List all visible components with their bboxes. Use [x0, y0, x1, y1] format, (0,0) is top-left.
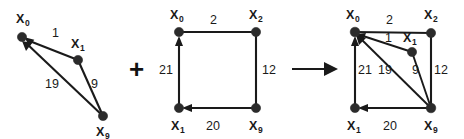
node-label-x2: X [424, 8, 433, 22]
graph-left: X 0 X 1 X 9 1 19 9 [16, 12, 110, 139]
edge-weight-x2-x9: 12 [262, 63, 276, 77]
node-x1[interactable] [73, 55, 82, 64]
node-label-x0: X [346, 8, 355, 22]
edge-weight-x1b-x0: 1 [385, 31, 392, 45]
graph-right: X 0 X 2 X 1 X 1 X 9 2 1 12 9 19 21 20 [346, 8, 448, 135]
node-label-x1-inner: X [403, 31, 412, 45]
arrowhead-x1-x0 [175, 36, 183, 46]
arrow-right-icon [292, 62, 338, 76]
node-sub-x0: 0 [25, 18, 30, 28]
node-sub-x1: 1 [80, 43, 85, 53]
node-label-x9: X [249, 119, 258, 133]
node-sub-x1: 1 [180, 125, 185, 135]
edge-weight-x9-x1: 20 [383, 119, 397, 133]
graph-middle: X 0 X 2 X 1 X 9 2 12 20 21 [159, 8, 276, 135]
edge-weight-x9-x0: 19 [45, 77, 59, 91]
edge-weight-x9-x1: 20 [206, 119, 220, 133]
node-sub-x2: 2 [433, 14, 438, 24]
node-label-x0: X [16, 12, 25, 26]
graph-addition-diagram: X 0 X 1 X 9 1 19 9 + [0, 0, 464, 139]
node-sub-x9: 9 [105, 131, 110, 139]
edge-weight-x1-x0: 21 [159, 63, 173, 77]
node-sub-x9: 9 [433, 125, 438, 135]
node-label-x2: X [249, 8, 258, 22]
edge-weight-x9-x0: 19 [378, 63, 392, 77]
plus-operator-symbol: + [129, 54, 144, 84]
node-sub-x2: 2 [258, 14, 263, 24]
node-label-x0: X [170, 8, 179, 22]
node-x9[interactable] [426, 103, 436, 113]
node-x1-inner[interactable] [407, 47, 416, 56]
node-x2[interactable] [426, 28, 435, 37]
node-x9[interactable] [98, 111, 107, 120]
node-label-x1: X [347, 119, 356, 133]
edge-weight-x1-x0: 21 [358, 63, 372, 77]
edge-weight-x2-x9: 12 [434, 63, 448, 77]
node-x2[interactable] [251, 27, 260, 36]
node-sub-x1: 1 [356, 125, 361, 135]
edge-weight-x0-x2: 2 [386, 13, 393, 27]
node-sub-x9: 9 [258, 125, 263, 135]
edge-x0-x2 [355, 32, 431, 33]
edge-weight-x1-x0: 1 [52, 26, 59, 40]
node-label-x9: X [424, 119, 433, 133]
node-x1[interactable] [350, 103, 359, 112]
node-x9[interactable] [251, 103, 260, 112]
node-label-x1: X [171, 119, 180, 133]
node-sub-x1-inner: 1 [412, 37, 417, 47]
node-x0[interactable] [350, 27, 360, 37]
diagram-canvas: X 0 X 1 X 9 1 19 9 + [0, 0, 464, 139]
arrow-head-shape [324, 62, 338, 76]
node-label-x9: X [96, 125, 105, 139]
node-x1[interactable] [174, 103, 183, 112]
edge-weight-x1-x9: 9 [91, 77, 98, 91]
node-label-x1: X [71, 37, 80, 51]
node-x0[interactable] [17, 32, 26, 41]
node-x0[interactable] [174, 27, 183, 36]
node-sub-x0: 0 [355, 14, 360, 24]
edge-weight-x1b-x9: 9 [412, 63, 419, 77]
edge-weight-x0-x2: 2 [210, 13, 217, 27]
node-sub-x0: 0 [179, 14, 184, 24]
